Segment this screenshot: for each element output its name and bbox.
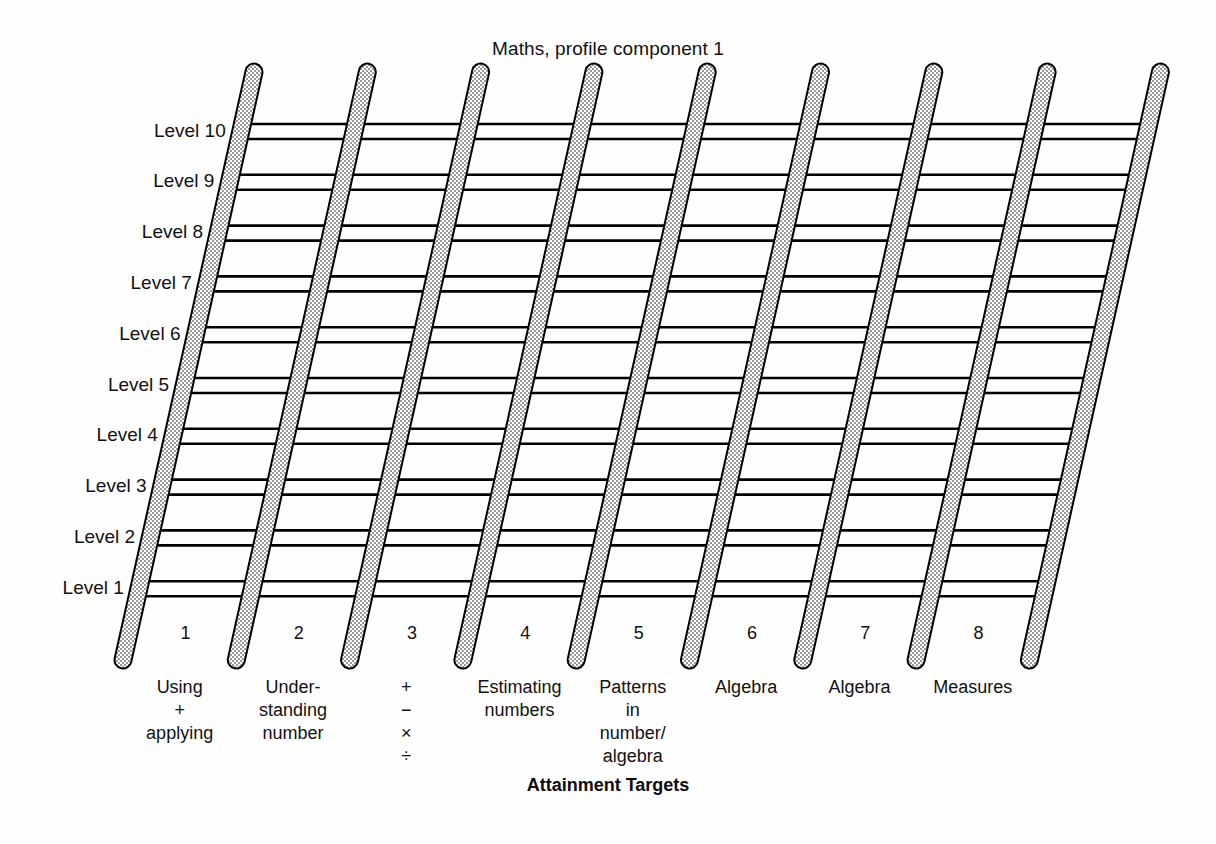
target-number-8: 8 [939,623,1019,644]
level-label-5: Level 5 [0,374,169,396]
level-label-6: Level 6 [5,323,180,345]
target-number-4: 4 [485,623,565,644]
level-label-9: Level 9 [39,170,214,192]
target-name-line: Measures [903,676,1043,699]
target-name-line: algebra [563,745,703,768]
target-name-line: in [563,699,703,722]
target-name-line: ÷ [336,745,476,768]
ladder-rail [1029,72,1160,660]
level-label-8: Level 8 [28,221,203,243]
ladder-rail [803,72,934,660]
level-label-10: Level 10 [51,120,226,142]
level-label-1: Level 1 [0,577,124,599]
level-label-4: Level 4 [0,424,158,446]
ladder-rail [236,72,367,660]
target-name-8: Measures [903,676,1043,699]
ladder-figure: Maths, profile component 1 Level 10Level… [0,0,1216,844]
target-number-1: 1 [145,623,225,644]
target-name-line: × [336,722,476,745]
level-label-2: Level 2 [0,526,135,548]
target-number-6: 6 [712,623,792,644]
axis-caption: Attainment Targets [398,775,818,796]
ladder-rail [463,72,594,660]
ladder-rail [576,72,707,660]
target-number-3: 3 [372,623,452,644]
target-number-2: 2 [259,623,339,644]
level-label-3: Level 3 [0,475,147,497]
target-number-5: 5 [599,623,679,644]
ladder-rail [350,72,481,660]
level-label-7: Level 7 [17,272,192,294]
ladder-rail [690,72,821,660]
ladder-rail [916,72,1047,660]
target-number-7: 7 [825,623,905,644]
rail-group [123,72,1160,660]
target-name-line: number/ [563,722,703,745]
ladder-rail [123,72,254,660]
